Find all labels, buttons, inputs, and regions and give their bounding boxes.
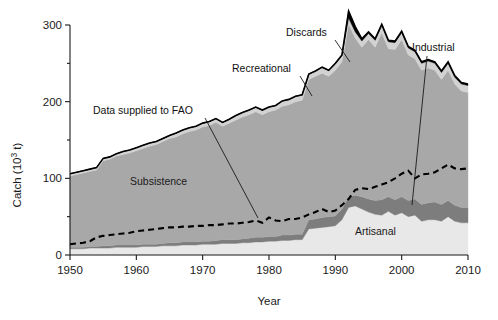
x-axis-title: Year bbox=[257, 295, 280, 307]
area-label-artisanal: Artisanal bbox=[355, 225, 396, 237]
x-axis-tick-label: 2000 bbox=[389, 264, 415, 276]
y-axis-title-main: Catch (10 bbox=[11, 158, 23, 208]
x-axis-tick-label: 1950 bbox=[57, 264, 83, 276]
x-axis-tick-label: 1970 bbox=[190, 264, 216, 276]
y-axis-tick-label: 300 bbox=[43, 19, 62, 31]
annotation-recreational-label: Recreational bbox=[232, 62, 291, 74]
x-axis-tick-label: 2010 bbox=[455, 264, 481, 276]
area-label-subsistence: Subsistence bbox=[130, 175, 187, 187]
x-axis-tick-label: 1980 bbox=[256, 264, 282, 276]
catch-stacked-area-chart: 01002003001950196019701980199020002010 S… bbox=[0, 0, 498, 320]
y-axis-tick-label: 100 bbox=[43, 172, 62, 184]
y-axis-tick-label: 0 bbox=[56, 249, 62, 261]
annotation-discards-label: Discards bbox=[286, 26, 327, 38]
annotation-industrial-label: Industrial bbox=[412, 41, 455, 53]
annotation-fao-label: Data supplied to FAO bbox=[93, 104, 193, 116]
x-axis-tick-label: 1960 bbox=[124, 264, 150, 276]
svg-text:Catch (103 t): Catch (103 t) bbox=[9, 142, 23, 207]
y-axis-title: Catch (103 t) bbox=[9, 142, 23, 207]
y-axis-title-tail: t) bbox=[11, 142, 23, 152]
y-axis-tick-label: 200 bbox=[43, 96, 62, 108]
x-axis-tick-label: 1990 bbox=[323, 264, 349, 276]
